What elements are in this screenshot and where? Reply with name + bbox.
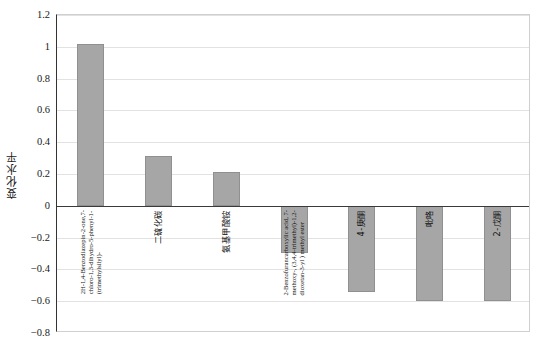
y-axis-tick-label: −0.2 <box>31 231 50 242</box>
y-axis-tick-label: 0.2 <box>37 168 50 179</box>
category-label: 二硫化碳 <box>153 210 163 244</box>
category-label: 吡咯 <box>424 210 434 227</box>
zero-baseline <box>57 206 529 207</box>
gridline <box>57 174 529 175</box>
y-axis-tick-mark <box>56 47 57 48</box>
y-axis-tick-mark <box>56 142 57 143</box>
bar-chart: 变化水平 1.210.80.60.40.20−0.2−0.4−0.6−0.8 2… <box>0 0 537 349</box>
y-axis-tick-label: −0.6 <box>31 295 50 306</box>
y-axis-tick-mark <box>56 269 57 270</box>
bar <box>77 44 104 206</box>
category-label: 2-Benzofurancarboxylic acid, 7-methoxy-,… <box>282 210 307 296</box>
y-axis-tick-label: 0.4 <box>37 136 50 147</box>
bar <box>145 156 172 206</box>
y-axis-tick-mark <box>56 79 57 80</box>
gridline <box>57 110 529 111</box>
category-label: 氨基甲酸铵 <box>221 210 231 253</box>
category-label: 2-戊酮 <box>492 210 502 237</box>
y-axis-tick-label: 0 <box>45 199 50 210</box>
gridline <box>57 301 529 302</box>
y-axis-tick-label: −0.4 <box>31 263 50 274</box>
bar <box>213 172 240 205</box>
gridline <box>57 15 529 16</box>
gridline <box>57 142 529 143</box>
y-axis-tick-labels: 1.210.80.60.40.20−0.2−0.4−0.6−0.8 <box>22 0 54 349</box>
y-axis-tick-mark <box>56 301 57 302</box>
y-axis-tick-mark <box>56 15 57 16</box>
category-label: 2H-1,4-Benzodiazepin-2-one,7-chloro-1,3-… <box>79 210 104 294</box>
y-axis-tick-label: 1 <box>45 40 50 51</box>
y-axis-tick-mark <box>56 238 57 239</box>
y-axis-title: 变化水平 <box>2 0 24 349</box>
y-axis-title-label: 变化水平 <box>5 151 21 199</box>
y-axis-tick-label: 0.8 <box>37 72 50 83</box>
y-axis-tick-label: 1.2 <box>37 9 50 20</box>
y-axis-tick-mark <box>56 174 57 175</box>
category-label: 4-庚酮 <box>356 210 366 237</box>
y-axis-tick-label: 0.6 <box>37 104 50 115</box>
y-axis-tick-mark <box>56 110 57 111</box>
gridline <box>57 79 529 80</box>
gridline <box>57 47 529 48</box>
plot-area: 2H-1,4-Benzodiazepin-2-one,7-chloro-1,3-… <box>56 14 530 332</box>
y-axis-tick-label: −0.8 <box>31 327 50 338</box>
